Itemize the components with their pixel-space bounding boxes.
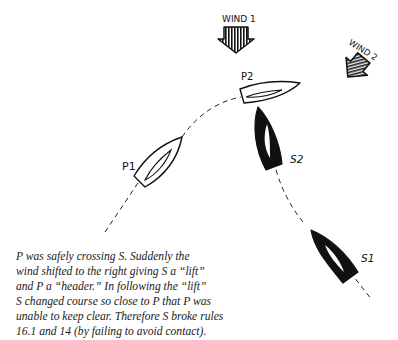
caption-line: P was safely crossing S. Suddenly the: [16, 249, 316, 264]
wind-2-indicator: WIND 2: [337, 37, 379, 86]
wind-1-indicator: WIND 1: [218, 14, 256, 53]
boat-s1-label: S1: [361, 252, 374, 264]
boat-p1-label: P1: [122, 160, 136, 173]
boat-p2: P2: [240, 71, 300, 103]
boat-s2: S2: [255, 107, 304, 170]
caption-line: unable to keep clear. Therefore S broke …: [16, 309, 316, 324]
wind-1-arrow-icon: [218, 27, 254, 53]
caption-line: wind shifted to the right giving S a “li…: [16, 264, 316, 279]
boat-p1: P1: [122, 137, 182, 187]
caption-line: 16.1 and 14 (by failing to avoid contact…: [16, 324, 316, 339]
caption-line: and P a “header.” In following the “lift…: [16, 279, 316, 294]
boat-s2-label: S2: [290, 153, 304, 165]
boat-p2-label: P2: [241, 71, 253, 82]
caption-line: S changed course so close to P that P wa…: [16, 294, 316, 309]
diagram-caption: P was safely crossing S. Suddenly the wi…: [16, 249, 316, 339]
boat-s1: S1: [311, 230, 374, 283]
wind-1-label: WIND 1: [222, 14, 256, 24]
